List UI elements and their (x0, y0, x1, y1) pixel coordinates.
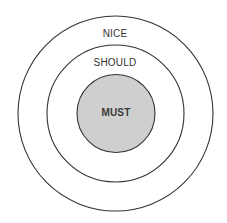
label-nice: NICE (103, 28, 128, 39)
priority-diagram: NICE SHOULD MUST (0, 0, 227, 223)
label-must: MUST (101, 107, 130, 118)
label-should: SHOULD (94, 57, 137, 68)
